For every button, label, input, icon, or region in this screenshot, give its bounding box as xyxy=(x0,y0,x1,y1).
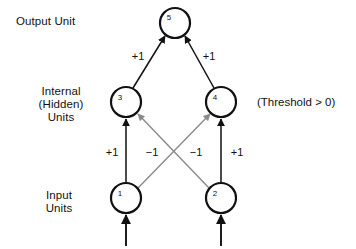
input-layer-label-line1: Input xyxy=(28,189,90,203)
node-4[interactable]: 4 xyxy=(206,87,236,117)
node-4-label: 4 xyxy=(213,93,218,102)
output-layer-label: Output Unit xyxy=(16,15,96,29)
node-5[interactable]: 5 xyxy=(160,8,190,38)
node-1-label: 1 xyxy=(118,189,123,198)
hidden-layer-label-line3: Units xyxy=(24,111,98,125)
weight-input2-to-hidden3: −1 xyxy=(185,146,207,158)
node-3[interactable]: 3 xyxy=(111,87,141,117)
neural-network-diagram: 5 3 4 1 2 Output Unit Internal (Hidden) … xyxy=(0,0,356,249)
hidden-layer-label-line2: (Hidden) xyxy=(24,98,98,112)
node-1[interactable]: 1 xyxy=(111,183,141,213)
weight-hidden3-to-output5: +1 xyxy=(127,50,149,62)
node-3-label: 3 xyxy=(118,93,123,102)
node-2-label: 2 xyxy=(213,189,218,198)
weight-input1-to-hidden3: +1 xyxy=(101,146,123,158)
edge-hidden4-to-output5 xyxy=(185,36,214,88)
hidden-layer-label-line1: Internal xyxy=(24,85,98,99)
node-2[interactable]: 2 xyxy=(206,183,236,213)
threshold-note: (Threshold > 0) xyxy=(257,96,335,109)
weight-input1-to-hidden4: −1 xyxy=(141,146,163,158)
edge-hidden3-to-output5 xyxy=(133,36,165,88)
weight-hidden4-to-output5: +1 xyxy=(198,50,220,62)
input-layer-label-line2: Units xyxy=(28,202,90,216)
weight-input2-to-hidden4: +1 xyxy=(226,146,248,158)
node-5-label: 5 xyxy=(167,13,172,22)
